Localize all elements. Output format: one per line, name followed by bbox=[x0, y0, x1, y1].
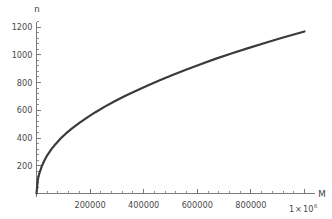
x-axis-end-label: 1 × 10 6 bbox=[289, 203, 318, 214]
x-tick-label: 600000 bbox=[182, 200, 213, 210]
y-tick-label: 800 bbox=[17, 78, 33, 88]
x-tick-label: 400000 bbox=[128, 200, 159, 210]
x-end-exponent: 6 bbox=[314, 203, 318, 209]
x-end-times-symbol: × bbox=[295, 204, 302, 214]
x-end-mantissa: 1 bbox=[289, 204, 294, 214]
x-axis-label: M bbox=[318, 189, 325, 199]
x-tick-label: 200000 bbox=[74, 200, 105, 210]
x-end-base: 10 bbox=[303, 204, 313, 214]
plot-area: 20040060080010001200 2000004000006000008… bbox=[0, 0, 332, 219]
y-tick-label: 200 bbox=[17, 161, 33, 171]
data-curve-n-of-m bbox=[37, 31, 305, 193]
y-tick-label: 1000 bbox=[12, 50, 33, 60]
y-tick-label: 1200 bbox=[12, 22, 33, 32]
y-axis-label: n bbox=[34, 4, 39, 14]
chart-svg: 20040060080010001200 2000004000006000008… bbox=[0, 0, 332, 219]
y-tick-label: 600 bbox=[17, 105, 33, 115]
x-tick-label: 800000 bbox=[235, 200, 266, 210]
y-tick-label: 400 bbox=[17, 133, 33, 143]
x-axis-ticks: 200000400000600000800000 bbox=[37, 189, 305, 210]
